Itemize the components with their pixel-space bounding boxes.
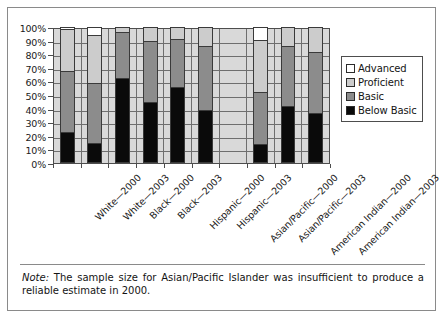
stacked-bar[interactable] bbox=[87, 27, 102, 163]
proficient-swatch-icon bbox=[346, 78, 355, 87]
bar-segment-advanced bbox=[88, 28, 101, 36]
bar-segment-basic bbox=[61, 72, 74, 133]
x-axis-tick-mark bbox=[247, 164, 248, 168]
legend-item[interactable]: Below Basic bbox=[346, 103, 417, 117]
legend-item[interactable]: Basic bbox=[346, 89, 417, 103]
bar-column bbox=[220, 29, 248, 163]
bar-segment-proficient bbox=[144, 28, 157, 42]
note-body: The sample size for Asian/Pacific Island… bbox=[22, 272, 424, 296]
bar-column bbox=[192, 29, 220, 163]
bar-segment-proficient bbox=[171, 28, 184, 40]
bar-segment-proficient bbox=[88, 36, 101, 84]
chart-area: 0%10%20%30%40%50%60%70%80%90%100% White—… bbox=[8, 12, 437, 257]
y-axis-tick-label: 70% bbox=[25, 63, 46, 74]
bar-column bbox=[247, 29, 275, 163]
x-axis-tick-mark bbox=[302, 164, 303, 168]
bar-segment-basic bbox=[309, 53, 322, 115]
stacked-bar[interactable] bbox=[143, 27, 158, 163]
bar-segment-basic bbox=[254, 93, 267, 145]
note-text: Note: The sample size for Asian/Pacific … bbox=[22, 271, 424, 297]
x-axis-tick-mark bbox=[192, 164, 193, 168]
x-axis-labels: White—2000White—2003Black—2000Black—2003… bbox=[53, 169, 383, 257]
stacked-bar[interactable] bbox=[308, 27, 323, 163]
plot-area bbox=[53, 28, 330, 164]
bar-segment-proficient bbox=[254, 41, 267, 93]
x-axis-tick-mark bbox=[219, 164, 220, 168]
y-axis-tick-label: 90% bbox=[25, 36, 46, 47]
bar-segment-below-basic bbox=[116, 79, 129, 162]
y-axis-tick-label: 50% bbox=[25, 91, 46, 102]
bar-segment-advanced bbox=[254, 28, 267, 41]
x-axis-tick-mark bbox=[81, 164, 82, 168]
bar-column bbox=[302, 29, 329, 163]
bar-segment-below-basic bbox=[199, 111, 212, 162]
legend-item[interactable]: Advanced bbox=[346, 61, 417, 75]
bar-segment-below-basic bbox=[88, 144, 101, 162]
bar-segment-proficient bbox=[309, 28, 322, 53]
bar-segment-basic bbox=[116, 33, 129, 79]
bar-group bbox=[54, 29, 329, 163]
stacked-bar[interactable] bbox=[281, 27, 296, 163]
y-axis-tick-label: 60% bbox=[25, 77, 46, 88]
stacked-bar[interactable] bbox=[198, 27, 213, 163]
bar-segment-proficient bbox=[61, 30, 74, 72]
bar-segment-basic bbox=[144, 42, 157, 102]
bar-segment-below-basic bbox=[171, 88, 184, 162]
bar-segment-basic bbox=[88, 84, 101, 144]
bar-segment-below-basic bbox=[254, 145, 267, 162]
stacked-bar[interactable] bbox=[253, 27, 268, 163]
bar-segment-proficient bbox=[282, 28, 295, 47]
note-label: Note: bbox=[22, 272, 49, 283]
x-axis-tick-mark bbox=[164, 164, 165, 168]
y-axis-tick-label: 20% bbox=[25, 131, 46, 142]
x-axis-tick-mark bbox=[53, 164, 54, 168]
legend-label: Advanced bbox=[358, 63, 407, 74]
bar-column bbox=[137, 29, 165, 163]
x-axis-tick-mark bbox=[108, 164, 109, 168]
bar-column bbox=[164, 29, 192, 163]
stacked-bar[interactable] bbox=[60, 27, 75, 163]
y-axis-tick-label: 0% bbox=[31, 159, 46, 170]
bar-segment-basic bbox=[171, 40, 184, 89]
basic-swatch-icon bbox=[346, 92, 355, 101]
legend-label: Basic bbox=[358, 91, 384, 102]
stacked-bar[interactable] bbox=[170, 27, 185, 163]
legend-label: Proficient bbox=[358, 77, 404, 88]
bar-segment-below-basic bbox=[282, 107, 295, 162]
legend: AdvancedProficientBasicBelow Basic bbox=[341, 56, 423, 122]
below-basic-swatch-icon bbox=[346, 106, 355, 115]
y-axis-tick-label: 100% bbox=[20, 23, 46, 34]
bar-column bbox=[275, 29, 303, 163]
note-divider bbox=[20, 264, 425, 265]
x-axis-tick-mark bbox=[330, 164, 331, 168]
bar-column bbox=[82, 29, 110, 163]
advanced-swatch-icon bbox=[346, 64, 355, 73]
bar-column bbox=[54, 29, 82, 163]
stacked-bar[interactable] bbox=[115, 27, 130, 163]
figure-panel: 0%10%20%30%40%50%60%70%80%90%100% White—… bbox=[7, 7, 436, 311]
legend-item[interactable]: Proficient bbox=[346, 75, 417, 89]
x-axis-tick-mark bbox=[136, 164, 137, 168]
bar-segment-basic bbox=[282, 47, 295, 106]
legend-label: Below Basic bbox=[358, 105, 417, 116]
bar-segment-below-basic bbox=[144, 103, 157, 162]
bar-segment-basic bbox=[199, 47, 212, 110]
y-axis-tick-label: 80% bbox=[25, 50, 46, 61]
y-axis-tick-label: 10% bbox=[25, 145, 46, 156]
y-axis: 0%10%20%30%40%50%60%70%80%90%100% bbox=[8, 28, 53, 164]
y-axis-tick-label: 30% bbox=[25, 118, 46, 129]
bar-segment-below-basic bbox=[61, 133, 74, 162]
bar-segment-below-basic bbox=[309, 114, 322, 162]
y-axis-tick-label: 40% bbox=[25, 104, 46, 115]
bar-segment-proficient bbox=[199, 28, 212, 47]
x-axis-tick-mark bbox=[275, 164, 276, 168]
bar-column bbox=[109, 29, 137, 163]
